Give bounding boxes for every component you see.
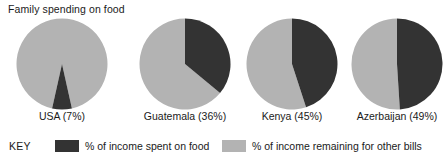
legend-label-spent-on-food: % of income spent on food <box>85 140 209 152</box>
pie-svg-azerbaijan <box>351 18 443 110</box>
pie-slices-azerbaijan <box>351 19 442 110</box>
pie-slices-kenya <box>246 19 337 110</box>
pie-label-usa: USA (7%) <box>8 110 116 122</box>
pie-svg-kenya <box>246 18 338 110</box>
pie-label-guatemala: Guatemala (36%) <box>131 110 239 122</box>
pie-label-kenya: Kenya (45%) <box>238 110 346 122</box>
pie-chart-guatemala: Guatemala (36%) <box>131 18 239 130</box>
chart-legend: KEY % of income spent on food % of incom… <box>0 136 437 160</box>
slice-remaining-azerbaijan <box>351 19 399 110</box>
pie-slices-usa <box>17 18 108 109</box>
legend-swatch-spent-on-food <box>55 140 79 152</box>
pie-chart-usa: USA (7%) <box>8 18 116 130</box>
pie-slices-guatemala <box>139 19 230 110</box>
pie-chart-kenya: Kenya (45%) <box>238 18 346 130</box>
legend-label-remaining-other-bills: % of income remaining for other bills <box>252 140 422 152</box>
pie-charts-row: USA (7%) Guatemala (36%) Kenya (45%) <box>0 18 437 130</box>
pie-label-azerbaijan: Azerbaijan (49%) <box>343 110 447 122</box>
pie-svg-usa <box>16 18 108 110</box>
pie-chart-azerbaijan: Azerbaijan (49%) <box>343 18 447 130</box>
legend-swatch-remaining-other-bills <box>222 140 246 152</box>
legend-key-label: KEY <box>9 140 31 152</box>
pie-svg-guatemala <box>139 18 231 110</box>
slice-spent-azerbaijan <box>397 19 442 110</box>
chart-title: Family spending on food <box>8 3 125 15</box>
